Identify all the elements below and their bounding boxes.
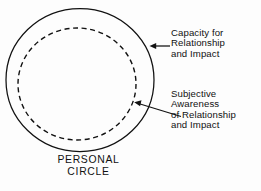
capacity-arrow — [150, 43, 171, 49]
personal-circle-outer — [6, 9, 154, 152]
personal-circle-label-line-2: CIRCLE — [20, 166, 157, 178]
annotation-capacity-line-3: and Impact — [171, 49, 225, 59]
personal-circle-label-line-1: PERSONAL — [20, 154, 157, 166]
annotation-capacity: Capacity for Relationship and Impact — [171, 28, 225, 59]
personal-circle-diagram: Capacity for Relationship and Impact Sub… — [0, 0, 261, 191]
annotation-subjective: Subjective Awareness of Relationship and… — [171, 89, 236, 131]
annotation-subjective-line-4: and Impact — [171, 120, 236, 130]
subjective-awareness-inner — [18, 28, 136, 140]
personal-circle-label: PERSONAL CIRCLE — [20, 154, 157, 179]
